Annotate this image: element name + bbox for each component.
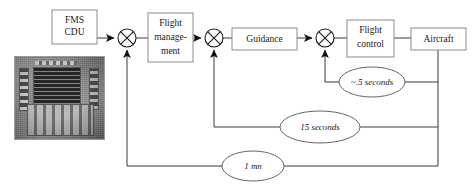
block-flight-management-line-1: manage-	[154, 32, 187, 42]
delay-15-seconds-label: 15 seconds	[300, 122, 340, 132]
block-guidance-label: Guidance	[246, 34, 282, 44]
block-fms-cdu[interactable]: FMS CDU	[52, 10, 97, 44]
diagram-svg: FMS CDU Flight manage- ment Guidance Fli…	[0, 0, 476, 196]
block-flight-control[interactable]: Flight control	[347, 20, 394, 57]
delay-1-minute[interactable]: 1 mn	[222, 151, 284, 181]
delay-half-second-label: ~.5 seconds	[351, 77, 394, 87]
delay-1-minute-label: 1 mn	[244, 161, 262, 171]
figure-canvas: FMS CDU Flight manage- ment Guidance Fli…	[0, 0, 476, 196]
block-flight-management[interactable]: Flight manage- ment	[148, 13, 193, 62]
block-flight-management-line-2: ment	[161, 46, 180, 56]
summing-junction-1[interactable]	[118, 29, 136, 47]
summing-junction-2[interactable]	[205, 29, 223, 47]
summing-junction-3[interactable]	[316, 29, 334, 47]
block-fms-cdu-line-0: FMS	[65, 15, 84, 25]
block-guidance[interactable]: Guidance	[232, 28, 297, 50]
block-flight-management-line-0: Flight	[159, 18, 182, 28]
block-aircraft-label: Aircraft	[423, 34, 453, 44]
block-fms-cdu-line-1: CDU	[64, 27, 84, 37]
delay-half-second[interactable]: ~.5 seconds	[339, 67, 405, 97]
delay-15-seconds[interactable]: 15 seconds	[280, 111, 360, 143]
block-aircraft[interactable]: Aircraft	[411, 28, 466, 50]
block-flight-control-line-0: Flight	[359, 25, 382, 35]
block-flight-control-line-1: control	[357, 39, 384, 49]
